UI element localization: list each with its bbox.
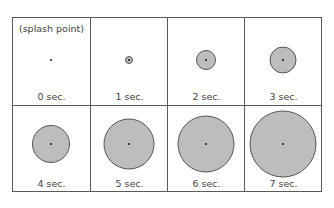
time-label: 4 sec. [13,178,90,189]
splash-point-dot [128,143,130,145]
cell-4: 4 sec. [13,106,90,192]
splash-point-label: (splash point) [13,23,90,34]
cell-1: 1 sec. [91,18,168,105]
time-label: 1 sec. [91,91,168,102]
time-label: 3 sec. [245,91,322,102]
ripple-grid: (splash point) 0 sec. 1 sec. 2 sec. 3 se… [12,17,322,192]
cell-2: 2 sec. [168,18,245,105]
time-label: 7 sec. [245,178,322,189]
cell-7: 7 sec. [245,106,322,192]
cell-5: 5 sec. [91,106,168,192]
splash-point-dot [50,59,52,61]
splash-point-dot [205,143,207,145]
splash-point-dot [282,143,284,145]
splash-point-dot [50,143,52,145]
time-label: 6 sec. [168,178,245,189]
cell-0: (splash point) 0 sec. [13,18,90,105]
time-label: 0 sec. [13,91,90,102]
splash-point-dot [282,59,284,61]
time-label: 2 sec. [168,91,245,102]
splash-point-dot [205,59,207,61]
cell-6: 6 sec. [168,106,245,192]
splash-point-dot [128,59,130,61]
time-label: 5 sec. [91,178,168,189]
cell-3: 3 sec. [245,18,322,105]
